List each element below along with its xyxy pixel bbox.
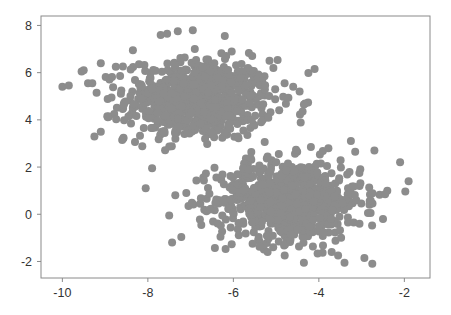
data-point-cluster-1 bbox=[148, 85, 156, 93]
data-point-cluster-2 bbox=[265, 179, 273, 187]
data-point-cluster-2 bbox=[302, 205, 310, 213]
data-point-cluster-2 bbox=[337, 156, 345, 164]
data-point-cluster-2 bbox=[292, 146, 300, 154]
data-point-cluster-2 bbox=[316, 214, 324, 222]
y-axis: -202468 bbox=[21, 19, 41, 269]
data-point-cluster-1 bbox=[202, 56, 210, 64]
data-point-cluster-2 bbox=[229, 208, 237, 216]
data-point-cluster-2 bbox=[278, 201, 286, 209]
data-point-outlier bbox=[97, 128, 105, 136]
data-point-cluster-1 bbox=[248, 116, 256, 124]
data-point-cluster-1 bbox=[224, 112, 232, 120]
data-point-outlier bbox=[65, 82, 73, 90]
data-point-cluster-1 bbox=[244, 64, 252, 72]
data-point-cluster-2 bbox=[351, 191, 359, 199]
data-point-outlier bbox=[118, 136, 126, 144]
data-point-cluster-1 bbox=[132, 112, 140, 120]
data-point-cluster-2 bbox=[322, 179, 330, 187]
data-point-cluster-1 bbox=[167, 104, 175, 112]
data-point-cluster-2 bbox=[368, 222, 376, 230]
data-point-cluster-1 bbox=[138, 95, 146, 103]
data-point-outlier bbox=[364, 209, 372, 217]
data-point-cluster-2 bbox=[279, 194, 287, 202]
data-point-cluster-1 bbox=[149, 124, 157, 132]
data-point-cluster-1 bbox=[204, 88, 212, 96]
data-point-cluster-2 bbox=[287, 231, 295, 239]
data-point-cluster-2 bbox=[339, 199, 347, 207]
x-tick-label: -2 bbox=[399, 286, 410, 300]
data-point-outlier bbox=[80, 66, 88, 74]
data-point-cluster-1 bbox=[141, 67, 149, 75]
data-point-cluster-1 bbox=[130, 100, 138, 108]
data-point-cluster-1 bbox=[117, 87, 125, 95]
data-point-cluster-2 bbox=[249, 173, 257, 181]
data-point-cluster-2 bbox=[330, 192, 338, 200]
data-point-cluster-1 bbox=[180, 92, 188, 100]
data-point-cluster-2 bbox=[305, 163, 313, 171]
data-point-cluster-2 bbox=[263, 232, 271, 240]
data-point-cluster-1 bbox=[152, 67, 160, 75]
data-point-cluster-1 bbox=[191, 45, 199, 53]
data-point-cluster-2 bbox=[335, 174, 343, 182]
data-point-outlier bbox=[296, 88, 304, 96]
data-point-cluster-1 bbox=[232, 61, 240, 69]
data-point-cluster-1 bbox=[192, 56, 200, 64]
data-point-cluster-1 bbox=[108, 73, 116, 81]
data-point-cluster-1 bbox=[190, 81, 198, 89]
data-point-cluster-1 bbox=[261, 81, 269, 89]
data-point-cluster-2 bbox=[229, 174, 237, 182]
data-point-cluster-1 bbox=[138, 82, 146, 90]
data-point-cluster-2 bbox=[289, 182, 297, 190]
data-point-cluster-2 bbox=[192, 176, 200, 184]
data-point-cluster-1 bbox=[127, 92, 135, 100]
data-point-outlier bbox=[182, 189, 190, 197]
data-point-cluster-1 bbox=[259, 100, 267, 108]
data-point-cluster-1 bbox=[180, 79, 188, 87]
data-point-outlier bbox=[221, 32, 229, 40]
data-point-cluster-1 bbox=[112, 115, 120, 123]
data-point-outlier bbox=[249, 240, 257, 248]
data-point-cluster-1 bbox=[266, 57, 274, 65]
data-point-cluster-1 bbox=[124, 112, 132, 120]
data-point-cluster-2 bbox=[284, 160, 292, 168]
data-point-outlier bbox=[163, 30, 171, 38]
data-point-cluster-2 bbox=[177, 233, 185, 241]
data-point-cluster-2 bbox=[211, 199, 219, 207]
data-point-outlier bbox=[217, 233, 225, 241]
data-point-cluster-1 bbox=[284, 94, 292, 102]
data-point-cluster-2 bbox=[328, 169, 336, 177]
data-point-cluster-1 bbox=[145, 107, 153, 115]
data-point-cluster-1 bbox=[190, 95, 198, 103]
y-tick-label: 4 bbox=[25, 113, 32, 127]
data-point-cluster-2 bbox=[256, 243, 264, 251]
data-point-cluster-1 bbox=[197, 120, 205, 128]
data-point-outlier bbox=[381, 190, 389, 198]
data-point-cluster-1 bbox=[200, 108, 208, 116]
data-point-cluster-2 bbox=[336, 226, 344, 234]
data-point-cluster-1 bbox=[120, 101, 128, 109]
data-point-cluster-2 bbox=[357, 199, 365, 207]
data-point-outlier bbox=[264, 248, 272, 256]
data-point-cluster-1 bbox=[171, 61, 179, 69]
data-point-cluster-2 bbox=[266, 168, 274, 176]
data-point-cluster-2 bbox=[264, 153, 272, 161]
data-point-cluster-2 bbox=[290, 167, 298, 175]
data-point-outlier bbox=[368, 260, 376, 268]
y-tick-label: -2 bbox=[21, 255, 32, 269]
data-point-cluster-2 bbox=[343, 171, 351, 179]
data-point-outlier bbox=[93, 89, 101, 97]
data-point-cluster-1 bbox=[234, 86, 242, 94]
data-point-cluster-2 bbox=[247, 154, 255, 162]
data-point-outlier bbox=[112, 63, 120, 71]
x-axis: -10-8-6-4-2 bbox=[53, 278, 410, 300]
data-point-outlier bbox=[405, 177, 413, 185]
data-point-cluster-1 bbox=[116, 72, 124, 80]
data-point-cluster-2 bbox=[301, 173, 309, 181]
data-point-cluster-1 bbox=[160, 127, 168, 135]
data-point-cluster-2 bbox=[266, 216, 274, 224]
data-point-cluster-2 bbox=[242, 230, 250, 238]
scatter-chart: -10-8-6-4-2 -202468 bbox=[0, 0, 451, 315]
data-point-cluster-1 bbox=[161, 146, 169, 154]
data-point-cluster-1 bbox=[248, 52, 256, 60]
data-point-cluster-2 bbox=[313, 191, 321, 199]
